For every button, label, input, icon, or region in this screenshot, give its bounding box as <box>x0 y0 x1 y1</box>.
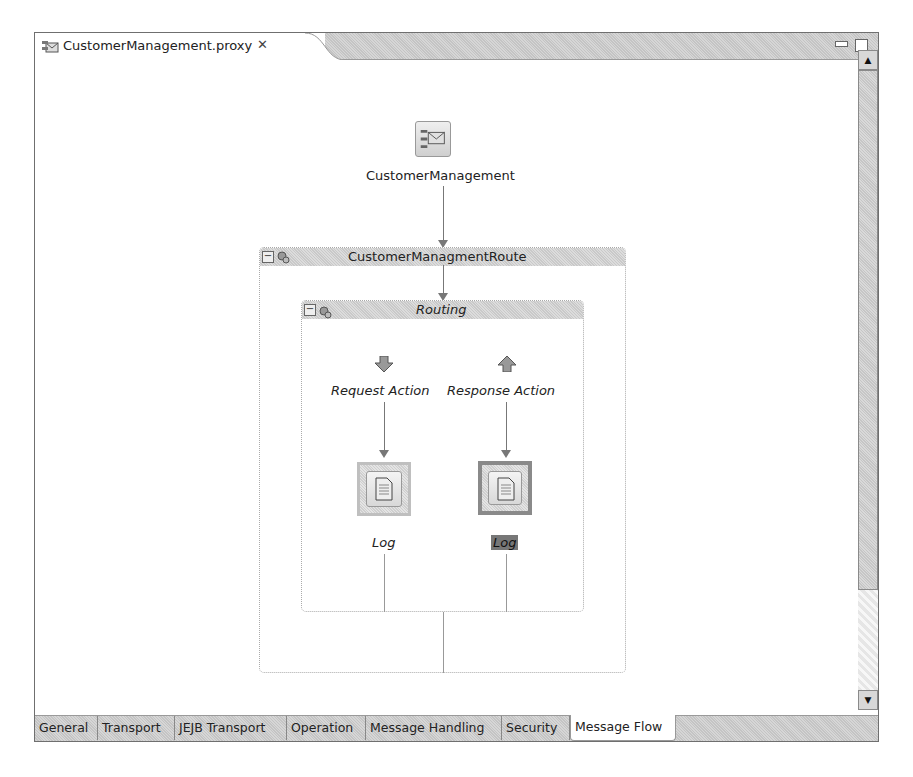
editor-tabbar: CustomerManagement.proxy ✕ <box>35 33 878 60</box>
tab-message-handling[interactable]: Message Handling <box>366 716 502 740</box>
response-action-label[interactable]: Response Action <box>447 383 555 398</box>
tab-transport[interactable]: Transport <box>98 716 175 740</box>
tab-general[interactable]: General <box>35 716 98 740</box>
connector <box>384 402 385 452</box>
editor-page-tabs: General Transport JEJB Transport Operati… <box>35 715 878 741</box>
request-log-label[interactable]: Log <box>372 535 395 550</box>
request-log-action[interactable] <box>357 462 411 516</box>
proxy-envelope-icon[interactable] <box>415 121 451 157</box>
scroll-up-button[interactable]: ▲ <box>858 50 878 70</box>
log-document-icon <box>375 477 393 501</box>
connector <box>443 612 444 673</box>
response-log-label[interactable]: Log <box>491 535 518 550</box>
editor-tab[interactable]: CustomerManagement.proxy ✕ <box>35 33 325 60</box>
tab-security[interactable]: Security <box>502 716 570 740</box>
routing-node-label: Routing <box>416 302 466 317</box>
connector <box>506 554 507 612</box>
proxy-node-label[interactable]: CustomerManagement <box>366 168 515 183</box>
log-document-icon <box>497 477 515 501</box>
arrow-down-head <box>379 450 389 458</box>
arrow-down-head <box>501 450 511 458</box>
tab-message-flow[interactable]: Message Flow <box>570 715 676 741</box>
editor-tab-title: CustomerManagement.proxy <box>63 38 252 53</box>
connector <box>506 402 507 452</box>
route-node-label: CustomerManagmentRoute <box>348 249 527 264</box>
connector <box>384 554 385 612</box>
routing-icon <box>318 305 332 319</box>
response-log-action[interactable] <box>478 461 532 515</box>
request-action-label[interactable]: Request Action <box>331 383 429 398</box>
scroll-down-button[interactable]: ▼ <box>858 690 878 710</box>
arrow-down-icon <box>375 356 393 372</box>
tab-curve <box>305 33 365 60</box>
connector <box>443 186 444 242</box>
scroll-thumb[interactable] <box>858 70 878 590</box>
scroll-track[interactable] <box>858 590 878 690</box>
tab-jejb-transport[interactable]: JEJB Transport <box>175 716 287 740</box>
route-node-icon <box>276 250 290 264</box>
proxy-service-icon <box>41 38 59 54</box>
vertical-scrollbar[interactable]: ▲ ▼ <box>858 50 878 710</box>
connector <box>443 265 444 295</box>
close-icon[interactable]: ✕ <box>257 37 268 52</box>
arrow-up-icon <box>498 356 516 372</box>
minimize-icon[interactable] <box>835 41 848 47</box>
collapse-routing-button[interactable]: − <box>304 304 316 316</box>
collapse-route-button[interactable]: − <box>262 251 274 263</box>
tab-operation[interactable]: Operation <box>287 716 366 740</box>
routing-node[interactable]: − Routing <box>301 300 584 612</box>
